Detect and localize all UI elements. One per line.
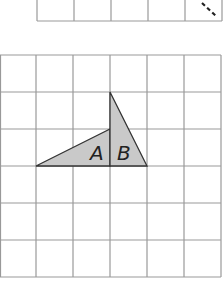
label-a: A (88, 141, 104, 165)
label-b: B (117, 141, 131, 165)
cut-mark-icon (202, 3, 216, 16)
grid-diagram: A B (0, 0, 223, 283)
top-grid (37, 0, 222, 21)
